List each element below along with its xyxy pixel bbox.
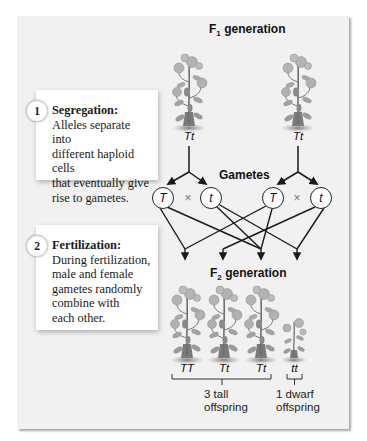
gamete-right-dominant: T <box>262 187 284 209</box>
fertilization-title: Fertilization: <box>52 238 152 253</box>
step-2-badge: 2 <box>26 235 48 257</box>
fertilization-note: Fertilization: During fertilization, mal… <box>36 225 158 330</box>
diagram-graphics <box>0 0 367 441</box>
offspring-brackets <box>172 374 302 385</box>
fertilization-line: During fertilization, <box>52 253 152 268</box>
segregation-line: rise to gametes. <box>52 191 152 206</box>
fertilization-line: combine with <box>52 296 152 311</box>
f2-genotype-2: Tt <box>219 362 229 374</box>
step-1-badge: 1 <box>26 100 48 122</box>
tall-offspring-caption: 3 tall offspring <box>204 388 248 414</box>
fertilization-line: male and female <box>52 267 152 282</box>
f2-generation-heading: F2 generation <box>210 266 286 282</box>
f2-plant-3 <box>244 286 279 364</box>
f1-plant-right <box>281 54 316 132</box>
f2-genotype-3: Tt <box>256 362 266 374</box>
gamete-left-dominant: T <box>152 187 174 209</box>
f2-plant-4 <box>281 319 307 364</box>
segregation-note: Segregation: Alleles separate into diffe… <box>36 90 158 180</box>
f2-plant-1 <box>170 286 205 364</box>
fertilization-arrows <box>160 204 324 259</box>
segregation-title: Segregation: <box>52 103 152 118</box>
segregation-line: that eventually give <box>52 176 152 191</box>
fertilization-line: gametes randomly <box>52 282 152 297</box>
cross-symbol-right: × <box>293 191 300 205</box>
fertilization-line: each other. <box>52 311 152 326</box>
f2-genotype-1: TT <box>180 362 194 374</box>
cross-symbol-left: × <box>184 191 191 205</box>
gametes-heading: Gametes <box>219 168 270 182</box>
f1-plant-left <box>172 54 207 132</box>
segregation-line: different haploid cells <box>52 147 152 176</box>
gamete-right-recessive: t <box>310 187 332 209</box>
f1-generation-heading: F1 generation <box>209 22 285 38</box>
f1-genotype-right: Tt <box>293 130 303 142</box>
segregation-line: Alleles separate into <box>52 118 152 147</box>
gamete-left-recessive: t <box>200 187 222 209</box>
dwarf-offspring-caption: 1 dwarf offspring <box>276 388 320 414</box>
f1-genotype-left: Tt <box>184 130 194 142</box>
f2-plant-2 <box>207 286 242 364</box>
f2-genotype-4: tt <box>291 362 297 374</box>
